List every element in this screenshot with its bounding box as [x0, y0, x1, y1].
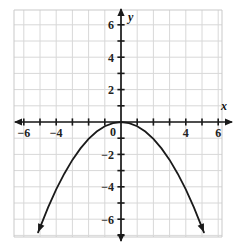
x-axis-label: x [220, 99, 227, 113]
y-tick-label: 6 [108, 18, 114, 32]
y-tick-label: 2 [108, 83, 114, 97]
y-tick-label: 4 [108, 51, 114, 65]
y-tick-label: −2 [101, 148, 114, 162]
y-tick-label: −4 [101, 180, 114, 194]
x-tick-label: −6 [17, 126, 30, 140]
y-axis-label: y [126, 10, 134, 24]
origin-label: 0 [110, 125, 116, 139]
graph-canvas: −6−446642−2−4−60 x y [0, 0, 237, 245]
coordinate-graph: −6−446642−2−4−60 x y [0, 0, 237, 245]
x-tick-label: 4 [183, 126, 189, 140]
y-tick-label: −6 [101, 213, 114, 227]
x-tick-label: 6 [215, 126, 221, 140]
x-tick-label: −4 [50, 126, 63, 140]
